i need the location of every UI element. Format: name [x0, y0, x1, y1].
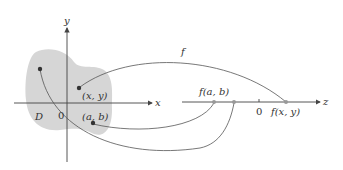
image-xy-label: f(x, y): [270, 106, 300, 117]
image-point-xy: [284, 100, 288, 104]
image-point-third: [232, 100, 236, 104]
image-point-ab: [212, 100, 216, 104]
function-label: f: [180, 46, 187, 57]
function-mapping-diagram: y x z D 0 (x, y) (a, b) f f(a, b) 0 f(x,…: [0, 0, 343, 170]
point-ab-label: (a, b): [82, 111, 109, 122]
z-axis-label: z: [322, 96, 329, 107]
domain-label: D: [34, 111, 43, 122]
y-axis-label: y: [63, 15, 70, 26]
point-xy-label: (x, y): [82, 90, 108, 101]
origin-label: 0: [58, 110, 64, 121]
z-origin-label: 0: [256, 106, 262, 117]
point-third: [38, 67, 42, 71]
point-xy: [77, 86, 81, 90]
image-ab-label: f(a, b): [198, 86, 229, 97]
x-axis-label: x: [155, 97, 161, 108]
